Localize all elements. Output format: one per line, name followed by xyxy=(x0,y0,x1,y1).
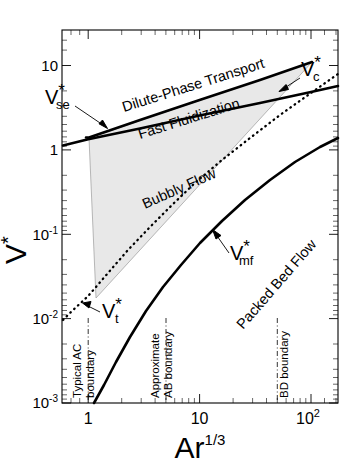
x-axis-title-exp: 1/3 xyxy=(205,431,226,448)
y-tick-4-exp: -3 xyxy=(49,393,58,404)
y-tick-label-0: 10 xyxy=(41,57,58,74)
fluidization-regime-chart: 10 1 10-1 10-2 10-3 1 10 102 V* Ar1/3 Di… xyxy=(0,0,352,469)
boundary-label-ab: Approximate AB boundary xyxy=(149,331,174,398)
vc-sub: c xyxy=(313,69,320,84)
svg-text:V*c: V*c xyxy=(301,53,321,84)
x-tick-2-base: 10 xyxy=(296,410,314,427)
x-tick-0-base: 1 xyxy=(84,410,93,427)
y-tick-3-base: 10 xyxy=(32,310,49,327)
vt-sub: t xyxy=(115,311,119,326)
chart-svg: 10 1 10-1 10-2 10-3 1 10 102 V* Ar1/3 Di… xyxy=(0,0,352,469)
ab-boundary-line1: Approximate xyxy=(149,333,161,398)
y-tick-2-base: 10 xyxy=(32,226,49,243)
y-tick-4-base: 10 xyxy=(32,394,49,411)
y-tick-1-base: 1 xyxy=(50,141,58,158)
vse-sub: se xyxy=(56,97,70,112)
vt-base: V xyxy=(102,300,116,322)
y-tick-3-exp: -2 xyxy=(49,309,58,320)
x-tick-label-1: 10 xyxy=(191,410,209,427)
boundary-label-ac: Typical AC boundary xyxy=(71,344,96,398)
x-tick-1-base: 10 xyxy=(191,410,209,427)
ab-boundary-line2: AB boundary xyxy=(162,331,174,398)
y-tick-2-exp: -1 xyxy=(49,225,58,236)
vmf-sub: mf xyxy=(239,253,254,268)
ac-boundary-line1: Typical AC xyxy=(71,344,83,398)
y-tick-0-base: 10 xyxy=(41,57,58,74)
y-axis-title-sup: * xyxy=(0,236,19,244)
annotation-vc: V*c xyxy=(301,53,321,84)
x-tick-2-exp: 2 xyxy=(314,407,320,419)
bd-boundary-line1: BD boundary xyxy=(278,331,290,398)
y-tick-label-1: 1 xyxy=(50,141,58,158)
boundary-label-bd: BD boundary xyxy=(278,331,290,398)
y-axis-title-base: V xyxy=(0,244,32,264)
x-axis-title-base: Ar xyxy=(175,431,205,464)
x-tick-label-0: 1 xyxy=(84,410,93,427)
ac-boundary-line2: boundary xyxy=(84,350,96,398)
